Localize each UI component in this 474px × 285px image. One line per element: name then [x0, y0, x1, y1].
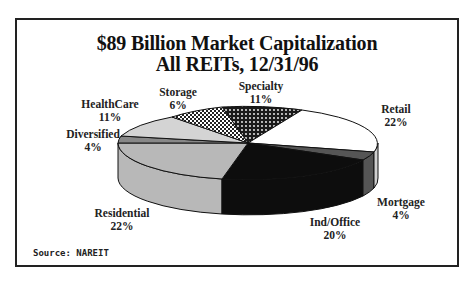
label-specialty-name: Specialty	[226, 80, 296, 93]
label-diversified-pct: 4%	[58, 141, 128, 154]
label-specialty-pct: 11%	[226, 93, 296, 106]
label-diversified: Diversified 4%	[58, 128, 128, 154]
label-storage-pct: 6%	[148, 99, 208, 112]
label-retail: Retail 22%	[366, 103, 426, 129]
label-storage-name: Storage	[148, 86, 208, 99]
label-indoffice-pct: 20%	[300, 229, 370, 242]
label-storage: Storage 6%	[148, 86, 208, 112]
label-mortgage: Mortgage 4%	[366, 196, 436, 222]
label-healthcare-pct: 11%	[75, 111, 145, 124]
pie-top	[118, 106, 377, 179]
label-mortgage-name: Mortgage	[366, 196, 436, 209]
label-retail-pct: 22%	[366, 116, 426, 129]
label-healthcare: HealthCare 11%	[75, 98, 145, 124]
label-healthcare-name: HealthCare	[75, 98, 145, 111]
label-residential-name: Residential	[82, 207, 162, 220]
label-indoffice: Ind/Office 20%	[300, 216, 370, 242]
label-residential: Residential 22%	[82, 207, 162, 233]
label-indoffice-name: Ind/Office	[300, 216, 370, 229]
label-specialty: Specialty 11%	[226, 80, 296, 106]
label-residential-pct: 22%	[82, 220, 162, 233]
source-note: Source: NAREIT	[33, 248, 109, 258]
label-diversified-name: Diversified	[58, 128, 128, 141]
label-retail-name: Retail	[366, 103, 426, 116]
label-mortgage-pct: 4%	[366, 209, 436, 222]
